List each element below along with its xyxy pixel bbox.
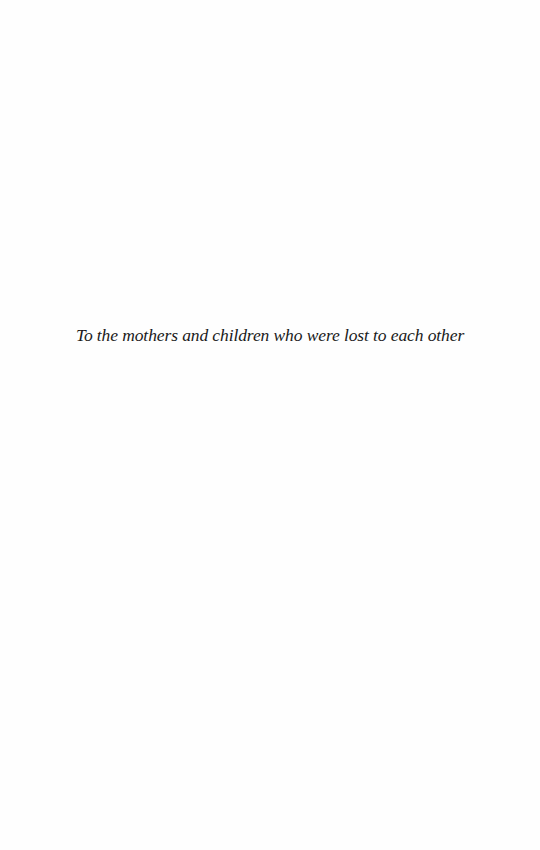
book-page: To the mothers and children who were los… [0, 0, 540, 850]
dedication-text: To the mothers and children who were los… [0, 324, 540, 346]
